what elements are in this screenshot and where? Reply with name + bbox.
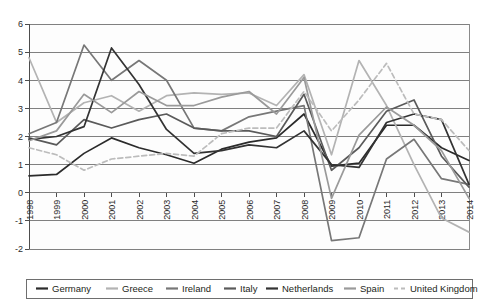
y-tick-label: 0 (18, 188, 23, 198)
legend: GermanyGreeceIrelandItalyNetherlandsSpai… (26, 279, 478, 298)
x-tick-label: 2009 (327, 200, 337, 220)
x-tick-label: 2000 (80, 200, 90, 220)
plot-area: 6543210-1-2 1998199920002001200220032004… (15, 19, 475, 254)
x-tick-label: 2008 (300, 200, 310, 220)
line-chart: 6543210-1-2 1998199920002001200220032004… (0, 0, 480, 305)
y-tick-label: 4 (18, 76, 23, 86)
x-tick-label: 2002 (135, 200, 145, 220)
x-tick-label: 2013 (437, 200, 447, 220)
x-tick-label: 2010 (355, 200, 365, 220)
x-tick-label: 1999 (52, 200, 62, 220)
legend-label-united-kingdom[interactable]: United Kingdom (410, 283, 478, 294)
legend-label-germany[interactable]: Germany (52, 283, 91, 294)
x-tick-label: 2012 (410, 200, 420, 220)
y-tick-label: 1 (18, 160, 23, 170)
x-tick-label: 2006 (245, 200, 255, 220)
x-tick-label: 2011 (382, 200, 392, 219)
y-tick-label: 5 (18, 47, 23, 57)
y-tick-label: 3 (18, 104, 23, 114)
y-tick-label: 6 (18, 19, 23, 29)
y-tick-label: 2 (18, 132, 23, 142)
x-tick-label: 2001 (107, 200, 117, 220)
x-tick-label: 1998 (25, 200, 35, 220)
y-tick-label: -1 (15, 216, 23, 226)
legend-label-netherlands[interactable]: Netherlands (282, 283, 333, 294)
legend-label-spain[interactable]: Spain (360, 283, 384, 294)
legend-label-ireland[interactable]: Ireland (182, 283, 211, 294)
x-tick-label: 2014 (465, 200, 475, 220)
legend-label-italy[interactable]: Italy (240, 283, 258, 294)
x-tick-label: 2005 (217, 200, 227, 220)
x-tick-label: 2003 (162, 200, 172, 220)
legend-label-greece[interactable]: Greece (122, 283, 153, 294)
x-tick-label: 2004 (190, 200, 200, 220)
x-tick-label: 2007 (272, 200, 282, 220)
y-tick-label: -2 (15, 244, 23, 254)
